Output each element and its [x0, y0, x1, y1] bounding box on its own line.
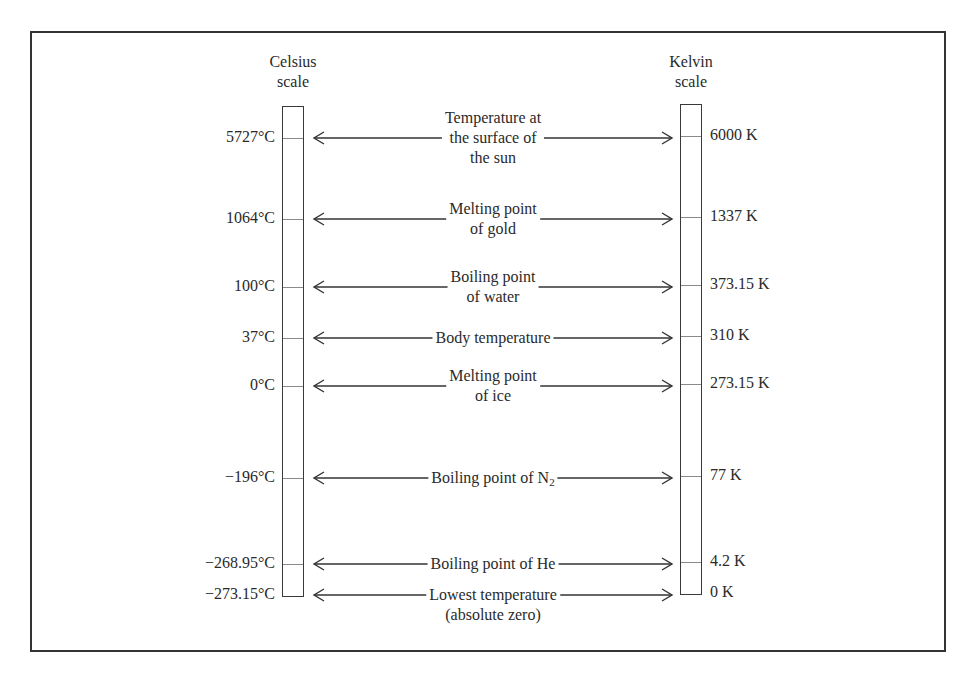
celsius-tick: [283, 138, 303, 139]
celsius-value: −273.15°C: [155, 585, 275, 603]
celsius-tick: [283, 287, 303, 288]
celsius-value: −268.95°C: [155, 554, 275, 572]
temperature-label: Boiling pointof water: [448, 267, 539, 307]
temperature-label-line: of ice: [449, 386, 537, 406]
kelvin-scale-column: [680, 104, 702, 595]
temperature-label: Lowest temperature(absolute zero): [426, 585, 560, 625]
temperature-label-line: the sun: [445, 148, 541, 168]
kelvin-header-line-1: Kelvin: [641, 52, 741, 72]
temperature-label: Melting pointof ice: [446, 366, 540, 406]
kelvin-tick: [681, 285, 701, 286]
temperature-label: Boiling point of He: [428, 554, 559, 574]
celsius-tick: [283, 564, 303, 565]
kelvin-value: 373.15 K: [710, 275, 770, 293]
temperature-label-line: Temperature at: [445, 108, 541, 128]
celsius-value: −196°C: [155, 468, 275, 486]
temperature-label-line: Boiling point of He: [431, 554, 556, 574]
temperature-label-line: Body temperature: [435, 328, 550, 348]
temperature-label: Temperature atthe surface ofthe sun: [442, 108, 544, 168]
label-main-text: Boiling point of N: [431, 469, 549, 486]
temperature-label: Body temperature: [432, 328, 553, 348]
celsius-scale-column: [282, 106, 304, 597]
kelvin-tick: [681, 476, 701, 477]
kelvin-value: 6000 K: [710, 126, 758, 144]
celsius-value: 37°C: [155, 328, 275, 346]
celsius-value: 0°C: [155, 376, 275, 394]
temperature-label-line: Melting point: [449, 199, 537, 219]
temperature-label: Boiling point of N2: [428, 468, 557, 488]
kelvin-value: 273.15 K: [710, 374, 770, 392]
kelvin-value: 1337 K: [710, 207, 758, 225]
celsius-header-line-2: scale: [243, 72, 343, 92]
temperature-label-line: Boiling point: [451, 267, 536, 287]
celsius-tick: [283, 219, 303, 220]
temperature-label-line: Boiling point of N2: [431, 468, 554, 488]
kelvin-tick: [681, 336, 701, 337]
temperature-label: Melting pointof gold: [446, 199, 540, 239]
temperature-label-line: of water: [451, 287, 536, 307]
temperature-label-line: Melting point: [449, 366, 537, 386]
temperature-label-line: Lowest temperature: [429, 585, 557, 605]
kelvin-tick: [681, 384, 701, 385]
celsius-value: 5727°C: [155, 128, 275, 146]
kelvin-tick: [681, 562, 701, 563]
celsius-value: 1064°C: [155, 209, 275, 227]
celsius-scale-header: Celsius scale: [243, 52, 343, 92]
celsius-header-line-1: Celsius: [243, 52, 343, 72]
celsius-tick: [283, 386, 303, 387]
kelvin-scale-header: Kelvin scale: [641, 52, 741, 92]
kelvin-tick: [681, 217, 701, 218]
temperature-label-line: (absolute zero): [429, 605, 557, 625]
kelvin-value: 4.2 K: [710, 552, 746, 570]
kelvin-header-line-2: scale: [641, 72, 741, 92]
kelvin-value: 0 K: [710, 583, 734, 601]
label-subscript: 2: [549, 476, 555, 488]
temperature-label-line: the surface of: [445, 128, 541, 148]
celsius-tick: [283, 338, 303, 339]
kelvin-value: 77 K: [710, 466, 742, 484]
temperature-label-line: of gold: [449, 219, 537, 239]
kelvin-tick: [681, 136, 701, 137]
kelvin-value: 310 K: [710, 326, 750, 344]
celsius-value: 100°C: [155, 277, 275, 295]
celsius-tick: [283, 478, 303, 479]
